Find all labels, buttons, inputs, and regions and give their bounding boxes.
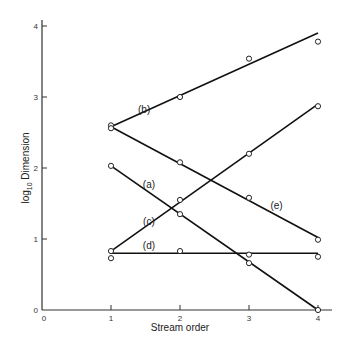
series-label: (b) [138,104,150,115]
fit-line [111,104,318,251]
data-point-marker [315,307,320,312]
x-tick-label: 1 [109,314,114,323]
data-point-marker [177,160,182,165]
data-point-marker [177,248,182,253]
series-label: (d) [143,240,155,251]
data-point-marker [108,163,113,168]
axes: 0123401234 [34,20,332,323]
data-point-marker [108,248,113,253]
data-point-marker [177,212,182,217]
series-label: (a) [143,179,155,190]
data-point-marker [315,237,320,242]
series-labels: (a)(b)(c)(d)(e) [138,104,283,251]
data-point-marker [177,94,182,99]
data-point-marker [246,261,251,266]
data-point-marker [315,104,320,109]
y-tick-label: 4 [34,22,39,31]
data-point-marker [246,252,251,257]
series-label: (e) [270,200,282,211]
y-tick-label: 2 [34,164,39,173]
x-tick-label: 3 [247,314,252,323]
x-tick-label: 4 [316,314,321,323]
data-point-marker [246,151,251,156]
y-tick-label: 1 [34,235,39,244]
x-tick-label: 0 [42,314,47,323]
data-point-marker [246,56,251,61]
data-point-marker [177,197,182,202]
data-point-marker [246,195,251,200]
y-tick-label: 0 [34,306,39,315]
data-point-marker [108,256,113,261]
x-axis-label: Stream order [151,322,210,333]
data-point-marker [315,254,320,259]
fit-lines [111,33,318,310]
series-label: (c) [143,216,155,227]
data-point-marker [315,39,320,44]
y-axis-label: log10 Dimension [20,132,33,203]
y-tick-label: 3 [34,93,39,102]
data-point-marker [108,126,113,131]
line-chart: 0123401234 (a)(b)(c)(d)(e) Stream order … [0,0,347,350]
